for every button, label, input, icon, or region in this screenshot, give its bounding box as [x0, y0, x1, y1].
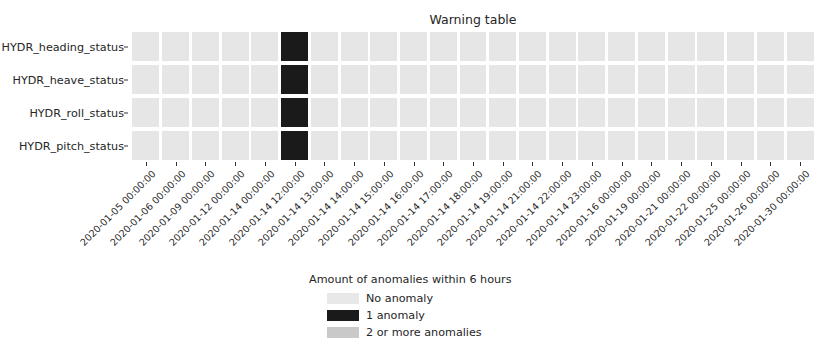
- heatmap-cell: [489, 65, 516, 95]
- heatmap-cell: [341, 131, 368, 161]
- heatmap-cell: [430, 131, 457, 161]
- heatmap-row: [131, 96, 815, 129]
- heatmap-cell: [638, 131, 665, 161]
- heatmap-cell: [519, 98, 546, 128]
- heatmap-cell: [162, 32, 189, 62]
- heatmap-cell: [251, 98, 278, 128]
- heatmap-cell: [430, 32, 457, 62]
- heatmap-cell: [608, 65, 635, 95]
- y-axis-tick-label: HYDR_pitch_status: [0, 139, 124, 152]
- heatmap-cell: [519, 32, 546, 62]
- heatmap-cell: [608, 32, 635, 62]
- heatmap-row: [131, 129, 815, 162]
- heatmap-cell: [697, 131, 724, 161]
- heatmap-row: [131, 63, 815, 96]
- x-axis-tick-mark: [384, 162, 385, 166]
- x-axis-tick-mark: [770, 162, 771, 166]
- x-axis-tick-mark: [295, 162, 296, 166]
- heatmap-cell: [608, 131, 635, 161]
- heatmap-cell: [668, 65, 695, 95]
- heatmap-cell: [697, 65, 724, 95]
- y-axis-tick-label: HYDR_roll_status: [0, 106, 124, 119]
- x-axis-tick-mark: [681, 162, 682, 166]
- x-axis-tick-mark: [800, 162, 801, 166]
- x-axis-tick-mark: [741, 162, 742, 166]
- legend-title: Amount of anomalies within 6 hours: [309, 273, 609, 286]
- heatmap-cell: [281, 65, 308, 95]
- heatmap-cell: [400, 98, 427, 128]
- heatmap-cell: [668, 98, 695, 128]
- heatmap-cell: [132, 32, 159, 62]
- heatmap-cell: [370, 131, 397, 161]
- x-axis-tick-mark: [443, 162, 444, 166]
- legend-label: No anomaly: [366, 292, 433, 305]
- x-axis-tick-mark: [265, 162, 266, 166]
- legend-swatch: [327, 310, 359, 321]
- heatmap-cell: [787, 32, 814, 62]
- x-axis-tick-mark: [414, 162, 415, 166]
- heatmap-cell: [519, 131, 546, 161]
- heatmap-plot-area: [131, 30, 815, 162]
- x-axis-tick-mark: [146, 162, 147, 166]
- heatmap-cell: [162, 131, 189, 161]
- heatmap-cell: [608, 98, 635, 128]
- heatmap-cell: [251, 65, 278, 95]
- heatmap-cell: [460, 131, 487, 161]
- legend-item: No anomaly: [309, 290, 609, 307]
- x-axis-tick-mark: [354, 162, 355, 166]
- heatmap-cell: [460, 65, 487, 95]
- legend-swatch: [327, 327, 359, 338]
- heatmap-cell: [311, 32, 338, 62]
- heatmap-cell: [192, 65, 219, 95]
- legend-label: 2 or more anomalies: [366, 326, 482, 339]
- heatmap-cell: [460, 98, 487, 128]
- x-axis-tick-mark: [503, 162, 504, 166]
- heatmap-cell: [697, 32, 724, 62]
- heatmap-cell: [460, 32, 487, 62]
- x-axis-tick-mark: [205, 162, 206, 166]
- heatmap-cell: [132, 131, 159, 161]
- legend-items: No anomaly1 anomaly2 or more anomalies: [309, 290, 609, 341]
- heatmap-cell: [578, 98, 605, 128]
- heatmap-cell: [638, 65, 665, 95]
- x-axis-tick-mark: [324, 162, 325, 166]
- legend: Amount of anomalies within 6 hours No an…: [309, 273, 609, 341]
- heatmap-cell: [281, 32, 308, 62]
- heatmap-cell: [400, 131, 427, 161]
- heatmap-cell: [341, 98, 368, 128]
- heatmap-cell: [727, 131, 754, 161]
- heatmap-cell: [192, 32, 219, 62]
- y-axis: HYDR_heading_statusHYDR_heave_statusHYDR…: [0, 30, 124, 162]
- x-axis-tick-mark: [176, 162, 177, 166]
- heatmap-cell: [400, 65, 427, 95]
- y-axis-tick-label: HYDR_heave_status: [0, 73, 124, 86]
- heatmap-cell: [370, 32, 397, 62]
- legend-swatch: [327, 293, 359, 304]
- x-axis-tick-mark: [235, 162, 236, 166]
- heatmap-cell: [341, 65, 368, 95]
- heatmap-cell: [578, 32, 605, 62]
- heatmap-row: [131, 30, 815, 63]
- heatmap-cell: [489, 98, 516, 128]
- heatmap-cell: [192, 98, 219, 128]
- heatmap-cell: [132, 65, 159, 95]
- y-axis-tick-mark: [124, 145, 128, 146]
- legend-item: 1 anomaly: [309, 307, 609, 324]
- heatmap-cell: [519, 65, 546, 95]
- heatmap-cell: [549, 32, 576, 62]
- heatmap-cell: [341, 32, 368, 62]
- heatmap-cell: [132, 98, 159, 128]
- heatmap-cell: [192, 131, 219, 161]
- heatmap-cell: [727, 32, 754, 62]
- x-axis-labels: 2020-01-05 00:00:002020-01-06 00:00:0020…: [131, 168, 815, 268]
- heatmap-cell: [757, 98, 784, 128]
- heatmap-cell: [727, 98, 754, 128]
- x-axis-tick-mark: [622, 162, 623, 166]
- heatmap-cell: [489, 32, 516, 62]
- x-axis-tick-mark: [473, 162, 474, 166]
- x-axis-tick-mark: [562, 162, 563, 166]
- heatmap-cell: [727, 65, 754, 95]
- heatmap-cell: [162, 65, 189, 95]
- heatmap-cell: [311, 65, 338, 95]
- warning-table-figure: Warning table HYDR_heading_statusHYDR_he…: [0, 0, 832, 359]
